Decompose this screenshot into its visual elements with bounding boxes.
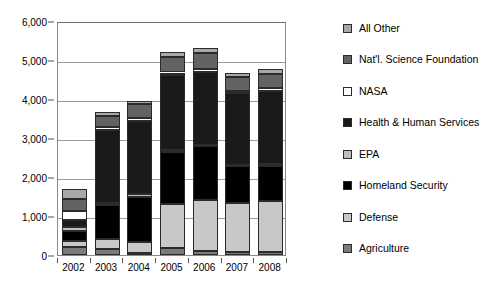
y-axis-tick-label: 2,000: [22, 173, 47, 184]
bar-segment[interactable]: [258, 91, 283, 164]
bar-segment[interactable]: [127, 253, 152, 255]
y-axis-tick-label: 0: [41, 251, 47, 262]
bar-segment[interactable]: [258, 69, 283, 74]
x-axis-tick-label: 2006: [193, 262, 215, 273]
bar-segment[interactable]: [95, 130, 120, 203]
legend-item[interactable]: Homeland Security: [343, 179, 448, 193]
y-axis-tick-mark: [48, 61, 54, 62]
legend-swatch-icon: [343, 118, 352, 127]
bar-2006[interactable]: [193, 48, 218, 255]
x-axis-tick-mark: [90, 258, 91, 263]
bar-segment[interactable]: [160, 73, 185, 75]
x-axis-tick-label: 2007: [226, 262, 248, 273]
bar-segment[interactable]: [193, 146, 218, 200]
bar-2002[interactable]: [62, 189, 87, 255]
bar-segment[interactable]: [193, 200, 218, 251]
y-axis-tick-label: 5,000: [22, 56, 47, 67]
x-axis-tick-label: 2003: [95, 262, 117, 273]
x-axis-tick-mark: [253, 258, 254, 263]
legend-swatch-icon: [343, 213, 352, 222]
legend-swatch-icon: [343, 244, 352, 253]
bar-segment[interactable]: [258, 166, 283, 201]
bar-segment[interactable]: [95, 127, 120, 129]
bar-segment[interactable]: [95, 116, 120, 127]
bar-segment[interactable]: [258, 201, 283, 252]
legend-item[interactable]: EPA: [343, 147, 379, 161]
legend-item[interactable]: Agriculture: [343, 242, 409, 256]
bar-segment[interactable]: [62, 199, 87, 211]
bar-2005[interactable]: [160, 52, 185, 255]
bar-segment[interactable]: [95, 112, 120, 116]
legend-item[interactable]: Health & Human Services: [343, 116, 479, 130]
bar-segment[interactable]: [225, 252, 250, 255]
bar-segment[interactable]: [62, 241, 87, 247]
bar-segment[interactable]: [160, 204, 185, 248]
bar-segment[interactable]: [225, 93, 250, 165]
bar-segment[interactable]: [193, 72, 218, 145]
legend-item[interactable]: All Other: [343, 21, 400, 35]
legend-item[interactable]: NASA: [343, 84, 388, 98]
bar-segment[interactable]: [225, 166, 250, 202]
legend-item-label: EPA: [359, 149, 379, 160]
bar-2003[interactable]: [95, 112, 120, 255]
bar-segment[interactable]: [160, 75, 185, 150]
bar-segment[interactable]: [258, 88, 283, 90]
bar-segment[interactable]: [95, 239, 120, 249]
x-axis-tick-mark: [122, 258, 123, 263]
y-axis-tick-mark: [48, 22, 54, 23]
bar-segment[interactable]: [225, 203, 250, 252]
bar-segment[interactable]: [258, 74, 283, 88]
legend-swatch-icon: [343, 150, 352, 159]
y-axis-tick-mark: [48, 178, 54, 179]
bar-segment[interactable]: [160, 57, 185, 73]
bar-2004[interactable]: [127, 101, 152, 255]
bar-segment[interactable]: [258, 252, 283, 255]
bar-segment[interactable]: [127, 101, 152, 105]
legend-item-label: All Other: [359, 23, 400, 34]
bar-segment[interactable]: [193, 53, 218, 69]
bar-segment[interactable]: [95, 249, 120, 255]
bar-segment[interactable]: [95, 203, 120, 205]
bar-segment[interactable]: [127, 118, 152, 121]
bar-segment[interactable]: [193, 48, 218, 53]
bar-2008[interactable]: [258, 69, 283, 255]
y-axis-tick-mark: [48, 217, 54, 218]
legend-swatch-icon: [343, 24, 352, 33]
bar-segment[interactable]: [127, 197, 152, 243]
legend-item[interactable]: Nat'l. Science Foundation: [343, 53, 478, 67]
bar-2007[interactable]: [225, 72, 250, 255]
bar-segment[interactable]: [62, 189, 87, 198]
y-axis-tick-mark: [48, 256, 54, 257]
bar-segment[interactable]: [62, 211, 87, 220]
x-axis: 2002200320042005200620072008: [57, 258, 286, 282]
bar-segment[interactable]: [127, 104, 152, 117]
bar-segment[interactable]: [193, 69, 218, 71]
legend-item[interactable]: Defense: [343, 210, 398, 224]
bar-segment[interactable]: [160, 248, 185, 255]
bar-segment[interactable]: [62, 220, 87, 227]
bar-segment[interactable]: [127, 194, 152, 196]
x-axis-tick-label: 2008: [259, 262, 281, 273]
bar-segment[interactable]: [193, 251, 218, 255]
legend-item-label: Homeland Security: [359, 180, 448, 191]
legend-item-label: NASA: [359, 86, 388, 97]
bar-segment[interactable]: [160, 52, 185, 57]
bar-segment[interactable]: [62, 231, 87, 241]
bar-segment[interactable]: [62, 227, 87, 231]
y-axis-tick-label: 6,000: [22, 17, 47, 28]
bar-segment[interactable]: [127, 242, 152, 253]
x-axis-tick-mark: [188, 258, 189, 263]
bar-segment[interactable]: [225, 73, 250, 78]
bar-segment[interactable]: [62, 247, 87, 255]
bar-segment[interactable]: [160, 152, 185, 204]
y-axis-tick-mark: [48, 100, 54, 101]
bar-segment[interactable]: [95, 205, 120, 238]
y-axis-tick-mark: [48, 139, 54, 140]
bar-segment[interactable]: [225, 77, 250, 91]
bar-segment[interactable]: [127, 121, 152, 194]
chart-legend: All OtherNat'l. Science FoundationNASAHe…: [296, 0, 488, 284]
chart-container: 01,0002,0003,0004,0005,0006,000 20022003…: [0, 0, 488, 284]
bar-segment[interactable]: [225, 91, 250, 93]
legend-item-label: Agriculture: [359, 243, 409, 254]
y-axis-tick-label: 1,000: [22, 212, 47, 223]
